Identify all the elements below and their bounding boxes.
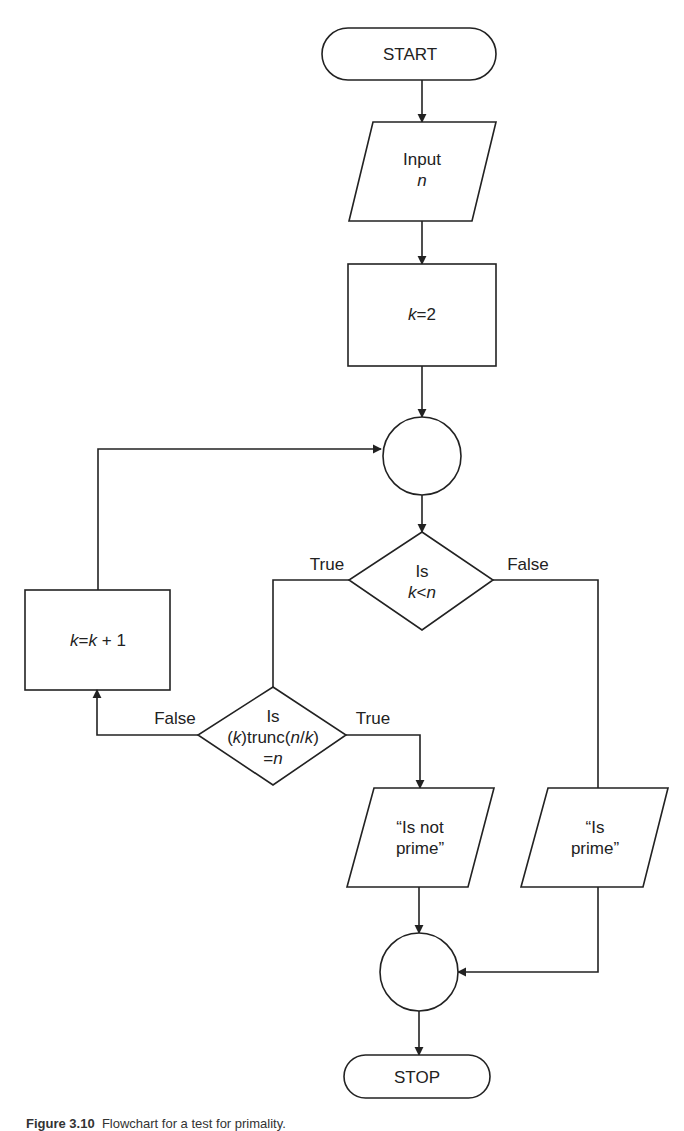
decision1-label: Is k<n	[408, 561, 436, 603]
dec1-false-label: False	[507, 554, 549, 575]
decision1-line2: k<n	[408, 582, 436, 603]
connector-circle-2	[380, 933, 458, 1011]
d2-trunc: )trunc(	[241, 728, 290, 747]
d2-n: n	[290, 728, 299, 747]
increment-var: k	[70, 631, 79, 650]
dec2-true-label: True	[356, 708, 390, 729]
figure-caption: Figure 3.10 Flowchart for a test for pri…	[26, 1116, 286, 1131]
decision1-var2: n	[426, 583, 435, 602]
d2-k2: k	[305, 728, 314, 747]
decision1-var1: k	[408, 583, 417, 602]
init-op: =	[417, 305, 427, 324]
decision1-line1: Is	[408, 561, 436, 582]
not-prime-line1: “Is not	[396, 817, 444, 838]
input-line2: n	[403, 170, 441, 191]
prime-line2: prime”	[571, 838, 619, 859]
input-line1: Input	[403, 149, 441, 170]
decision2-line2: (k)trunc(n/k)	[227, 727, 319, 748]
start-label: START	[383, 44, 437, 65]
connector-circle-1	[383, 417, 461, 495]
dec2-false-label: False	[154, 708, 196, 729]
dec1-true-label: True	[310, 554, 344, 575]
decision2-line3: =n	[227, 748, 319, 769]
not-prime-line2: prime”	[396, 838, 444, 859]
prime-line1: “Is	[571, 817, 619, 838]
edge-dec1-true	[273, 580, 349, 630]
decision2-line1: Is	[227, 706, 319, 727]
output-not-prime-label: “Is not prime”	[396, 817, 444, 859]
d2-k: k	[233, 728, 242, 747]
increment-plus: + 1	[102, 631, 126, 650]
increment-eq: =	[79, 631, 89, 650]
input-label: Input n	[403, 149, 441, 191]
init-label: k=2	[408, 304, 436, 325]
d2-paren-close: )	[313, 728, 319, 747]
stop-label: STOP	[394, 1067, 440, 1088]
init-var: k	[408, 305, 417, 324]
d2-n2: n	[273, 749, 282, 768]
init-val: 2	[426, 305, 435, 324]
decision2-label: Is (k)trunc(n/k) =n	[227, 706, 319, 769]
d2-eq: =	[263, 749, 273, 768]
figure-caption-text: Flowchart for a test for primality.	[102, 1116, 286, 1131]
edge-dec1-false	[493, 580, 598, 788]
edge-prime-join2	[458, 887, 598, 972]
decision1-op: <	[417, 583, 427, 602]
increment-label: k=k + 1	[70, 630, 126, 651]
edge-dec2-true	[346, 735, 420, 788]
output-prime-label: “Is prime”	[571, 817, 619, 859]
figure-number: Figure 3.10	[26, 1116, 95, 1131]
increment-var2: k	[89, 631, 98, 650]
